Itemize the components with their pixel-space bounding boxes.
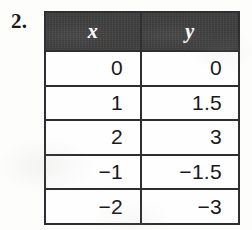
table-row: 2 3 bbox=[45, 120, 239, 155]
table-row: 1 1.5 bbox=[45, 86, 239, 121]
cell-x: −2 bbox=[45, 189, 141, 224]
cell-y: 0 bbox=[141, 51, 239, 86]
cell-x: −1 bbox=[45, 155, 141, 190]
cell-x: 1 bbox=[45, 86, 141, 121]
cell-x: 2 bbox=[45, 120, 141, 155]
cell-y: 1.5 bbox=[141, 86, 239, 121]
table-body: 0 0 1 1.5 2 3 −1 −1.5 −2 −3 bbox=[45, 51, 239, 224]
table-row: 0 0 bbox=[45, 51, 239, 86]
xy-value-table: x y 0 0 1 1.5 2 3 −1 −1.5 −2 −3 bbox=[44, 11, 240, 225]
cell-y: 3 bbox=[141, 120, 239, 155]
cell-y: −3 bbox=[141, 189, 239, 224]
cell-y: −1.5 bbox=[141, 155, 239, 190]
table-row: −1 −1.5 bbox=[45, 155, 239, 190]
cell-x: 0 bbox=[45, 51, 141, 86]
exercise-item: 2. x y 0 0 1 1.5 2 3 − bbox=[0, 0, 252, 230]
column-header-x: x bbox=[45, 12, 141, 51]
table-header: x y bbox=[45, 12, 239, 51]
column-header-y: y bbox=[141, 12, 239, 51]
table-row: −2 −3 bbox=[45, 189, 239, 224]
exercise-number-label: 2. bbox=[11, 10, 27, 32]
table-header-row: x y bbox=[45, 12, 239, 51]
